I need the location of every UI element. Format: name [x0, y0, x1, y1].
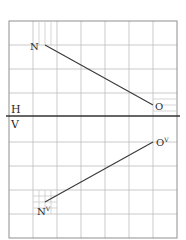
point-n-label: N: [30, 41, 39, 52]
point-nv-label: NV: [37, 205, 51, 217]
projection-diagram: H V N O NV OV: [0, 0, 186, 240]
point-o-label: O: [155, 101, 163, 112]
top-view-line-no: [45, 45, 153, 105]
point-ov-sup: V: [163, 136, 169, 143]
grid-border: [9, 21, 177, 238]
point-ov-letter: O: [156, 137, 164, 148]
point-ov-label: OV: [156, 136, 169, 148]
grid: [9, 21, 177, 238]
v-label: V: [10, 118, 20, 131]
point-nv-letter: N: [37, 206, 46, 217]
point-nv-sup: V: [45, 205, 51, 212]
n-hatch: [39, 21, 51, 45]
front-view-line-nvov: [45, 142, 153, 202]
h-label: H: [11, 103, 21, 116]
